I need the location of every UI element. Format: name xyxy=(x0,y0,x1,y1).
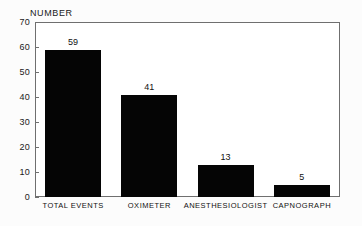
y-tick-mark xyxy=(35,197,39,198)
y-tick-label: 10 xyxy=(0,167,30,177)
bar xyxy=(45,50,101,198)
y-tick-mark xyxy=(35,172,39,173)
y-tick-mark xyxy=(35,147,39,148)
y-tick-label: 40 xyxy=(0,92,30,102)
x-axis-category-label: TOTAL EVENTS xyxy=(42,201,103,210)
y-tick-label: 60 xyxy=(0,42,30,52)
y-tick-mark xyxy=(35,22,39,23)
y-tick-label: 20 xyxy=(0,142,30,152)
bar-value-label: 41 xyxy=(144,82,154,92)
x-axis-category-label: OXIMETER xyxy=(128,201,171,210)
x-axis-category-label: ANESTHESIOLOGIST xyxy=(184,201,268,210)
bar xyxy=(198,165,254,198)
x-axis-category-label: CAPNOGRAPH xyxy=(273,201,331,210)
bar-value-label: 59 xyxy=(68,37,78,47)
y-tick-label: 30 xyxy=(0,117,30,127)
y-tick-label: 50 xyxy=(0,67,30,77)
y-axis-title: NUMBER xyxy=(30,8,73,18)
bar-value-label: 5 xyxy=(299,172,304,182)
bar xyxy=(121,95,177,198)
y-tick-mark xyxy=(35,72,39,73)
y-tick-mark xyxy=(35,47,39,48)
y-tick-label: 70 xyxy=(0,17,30,27)
y-tick-mark xyxy=(35,122,39,123)
chart-figure: NUMBER 010203040506070 5941135 TOTAL EVE… xyxy=(0,0,362,226)
y-tick-label: 0 xyxy=(0,192,30,202)
y-tick-mark xyxy=(35,97,39,98)
bar-value-label: 13 xyxy=(220,152,230,162)
bar xyxy=(274,185,330,198)
